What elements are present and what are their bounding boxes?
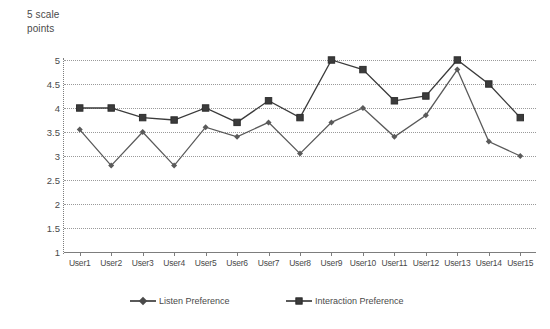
data-point-marker xyxy=(234,119,240,125)
x-axis-tick xyxy=(237,252,238,256)
series-layer xyxy=(64,60,536,252)
x-axis-tick-label: User14 xyxy=(476,258,502,268)
series-line xyxy=(80,60,521,122)
data-point-marker xyxy=(108,105,114,111)
data-point-marker xyxy=(454,57,460,63)
data-point-marker xyxy=(297,114,303,120)
data-point-marker xyxy=(328,57,334,63)
x-axis-tick xyxy=(300,252,301,256)
y-axis-tick-labels: 54.543.532.521.51 xyxy=(30,60,60,252)
y-axis-tick-label: 3.5 xyxy=(47,127,60,138)
data-point-marker xyxy=(517,114,523,120)
x-axis-tick xyxy=(520,252,521,256)
y-axis-tick-label: 5 xyxy=(55,55,60,66)
legend-marker-square-icon xyxy=(286,296,312,306)
data-point-marker xyxy=(423,93,429,99)
x-axis-tick-label: User9 xyxy=(321,258,343,268)
data-point-marker xyxy=(486,81,492,87)
y-axis-tick-label: 4.5 xyxy=(47,79,60,90)
x-axis-tick-label: User6 xyxy=(226,258,248,268)
x-axis-tick-label: User1 xyxy=(69,258,91,268)
y-axis-tick-label: 2 xyxy=(55,199,60,210)
data-point-marker xyxy=(486,139,492,145)
data-point-marker xyxy=(77,105,83,111)
x-axis-tick-label: User4 xyxy=(163,258,185,268)
legend-marker-diamond-icon xyxy=(130,296,156,306)
x-axis-tick-label: User5 xyxy=(195,258,217,268)
x-axis-tick-label: User15 xyxy=(507,258,533,268)
x-axis-tick xyxy=(206,252,207,256)
y-axis-title: 5 scale points xyxy=(27,8,59,36)
plot-area xyxy=(64,60,536,252)
legend-label: Interaction Preference xyxy=(315,296,404,306)
x-axis-tick xyxy=(426,252,427,256)
y-axis-tick-label: 4 xyxy=(55,103,60,114)
data-point-marker xyxy=(234,134,240,140)
data-point-marker xyxy=(139,114,145,120)
y-axis-tick-label: 1 xyxy=(55,247,60,258)
data-point-marker xyxy=(171,117,177,123)
x-axis-tick xyxy=(457,252,458,256)
x-axis-tick-label: User13 xyxy=(444,258,470,268)
data-point-marker xyxy=(360,66,366,72)
legend-item-listen-preference: Listen Preference xyxy=(130,296,230,306)
x-axis-tick-label: User8 xyxy=(289,258,311,268)
x-axis-tick-label: User10 xyxy=(350,258,376,268)
x-axis-ticks xyxy=(64,252,536,257)
data-point-marker xyxy=(202,105,208,111)
x-axis-tick-label: User3 xyxy=(132,258,154,268)
x-axis-tick xyxy=(363,252,364,256)
x-axis-tick xyxy=(331,252,332,256)
x-axis-tick-labels: User1User2User3User4User5User6User7User8… xyxy=(64,258,536,272)
y-axis-tick-label: 1.5 xyxy=(47,223,60,234)
x-axis-tick xyxy=(111,252,112,256)
x-axis-tick-label: User11 xyxy=(382,258,408,268)
legend-item-interaction-preference: Interaction Preference xyxy=(286,296,404,306)
x-axis-tick xyxy=(143,252,144,256)
y-axis-tick-label: 2.5 xyxy=(47,175,60,186)
legend-label: Listen Preference xyxy=(159,296,230,306)
x-axis-tick xyxy=(174,252,175,256)
x-axis-tick xyxy=(394,252,395,256)
x-axis-tick-label: User12 xyxy=(413,258,439,268)
y-axis-tick-label: 3 xyxy=(55,151,60,162)
x-axis-tick-label: User7 xyxy=(258,258,280,268)
chart-legend: Listen Preference Interaction Preference xyxy=(64,296,484,312)
line-chart: 5 scale points 54.543.532.521.51 User1Us… xyxy=(0,0,550,329)
x-axis-tick xyxy=(269,252,270,256)
x-axis-tick-label: User2 xyxy=(100,258,122,268)
data-point-marker xyxy=(391,98,397,104)
data-point-marker xyxy=(265,98,271,104)
x-axis-tick xyxy=(80,252,81,256)
x-axis-tick xyxy=(489,252,490,256)
series-2 xyxy=(77,57,524,126)
data-point-marker xyxy=(517,153,523,159)
